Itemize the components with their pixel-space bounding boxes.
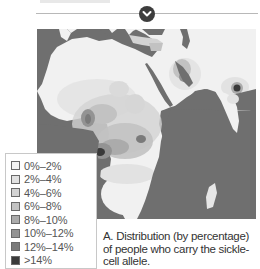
legend-label: 12%–14%	[24, 241, 73, 253]
legend-label: 4%–6%	[24, 187, 61, 199]
legend-item: >14%	[11, 254, 96, 268]
legend-label: 8%–10%	[24, 214, 67, 226]
legend-item: 6%–8%	[11, 200, 96, 214]
legend-swatch	[11, 188, 20, 197]
legend-swatch	[11, 161, 20, 170]
legend-swatch	[11, 256, 20, 265]
legend-label: 10%–12%	[24, 227, 73, 239]
legend: 0%–2% 2%–4% 4%–6% 6%–8% 8%–10% 10%–12% 1…	[5, 153, 97, 269]
legend-swatch	[11, 215, 20, 224]
legend-item: 12%–14%	[11, 240, 96, 254]
legend-item: 8%–10%	[11, 213, 96, 227]
figure-caption: A. Distribution (by percentage) of peopl…	[103, 230, 259, 268]
legend-label: 0%–2%	[24, 160, 61, 172]
legend-swatch	[11, 229, 20, 238]
legend-label: 6%–8%	[24, 200, 61, 212]
previous-content-edge	[40, 0, 110, 3]
expand-button[interactable]	[139, 6, 155, 22]
legend-item: 0%–2%	[11, 159, 96, 173]
legend-item: 4%–6%	[11, 186, 96, 200]
legend-swatch	[11, 175, 20, 184]
legend-swatch	[11, 242, 20, 251]
chevron-down-icon	[142, 10, 152, 18]
legend-label: 2%–4%	[24, 173, 61, 185]
legend-label: >14%	[24, 254, 52, 266]
legend-item: 10%–12%	[11, 227, 96, 241]
legend-item: 2%–4%	[11, 173, 96, 187]
legend-swatch	[11, 202, 20, 211]
